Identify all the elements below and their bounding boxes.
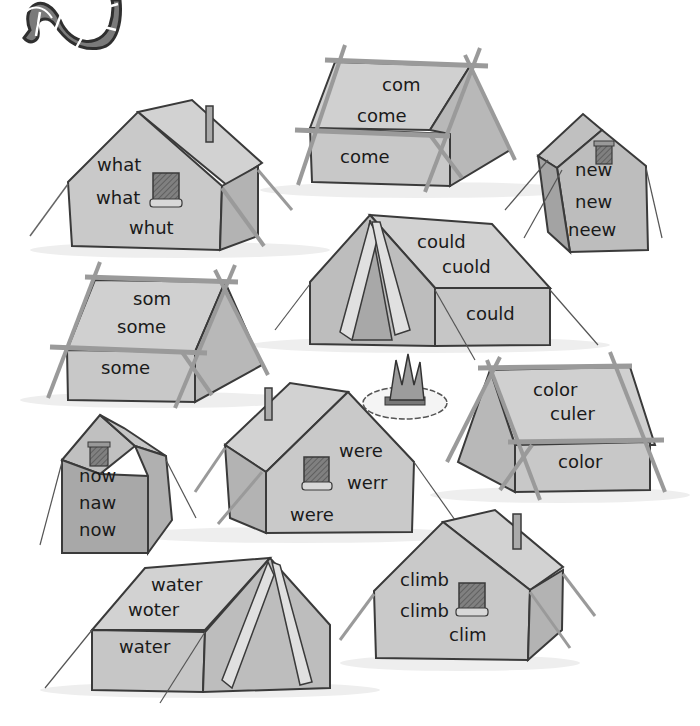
worm-icon: [22, 0, 121, 49]
tent-climb-word-2[interactable]: climb: [400, 602, 449, 620]
tent-could-word-1[interactable]: could: [417, 233, 466, 251]
tent-what-word-3[interactable]: whut: [129, 219, 174, 237]
tent-new-word-3[interactable]: neew: [568, 221, 616, 239]
tent-new-word-1[interactable]: new: [575, 161, 612, 179]
tent-water-word-1[interactable]: water: [151, 576, 202, 594]
tent-new-word-2[interactable]: new: [575, 193, 612, 211]
tent-what-word-2[interactable]: what: [96, 189, 140, 207]
tent-climb-word-3[interactable]: clim: [449, 626, 486, 644]
tent-come-word-2[interactable]: come: [357, 107, 407, 125]
tent-come-word-1[interactable]: com: [382, 76, 420, 94]
tent-come-word-3[interactable]: come: [340, 148, 390, 166]
tent-could-word-3[interactable]: could: [466, 305, 515, 323]
tent-climb-word-1[interactable]: climb: [400, 571, 449, 589]
tent-were-word-2[interactable]: werr: [347, 474, 387, 492]
tent-color: [447, 352, 665, 500]
tent-color-word-2[interactable]: culer: [550, 405, 595, 423]
tent-were-word-3[interactable]: were: [290, 506, 334, 524]
tent-what-word-1[interactable]: what: [97, 156, 141, 174]
tent-water-word-3[interactable]: water: [119, 638, 170, 656]
tent-water-word-2[interactable]: woter: [128, 601, 179, 619]
tent-now-word-3[interactable]: now: [79, 521, 116, 539]
tent-now-word-1[interactable]: now: [79, 467, 116, 485]
tent-now-word-2[interactable]: naw: [79, 494, 116, 512]
tent-could-word-2[interactable]: cuold: [442, 258, 491, 276]
tent-were-word-1[interactable]: were: [339, 442, 383, 460]
tent-some-word-3[interactable]: some: [101, 359, 150, 377]
tent-color-word-1[interactable]: color: [533, 381, 577, 399]
campfire-icon: [363, 354, 447, 419]
tent-color-word-3[interactable]: color: [558, 453, 602, 471]
tent-some-word-1[interactable]: som: [133, 290, 171, 308]
tent-some-word-2[interactable]: some: [117, 318, 166, 336]
